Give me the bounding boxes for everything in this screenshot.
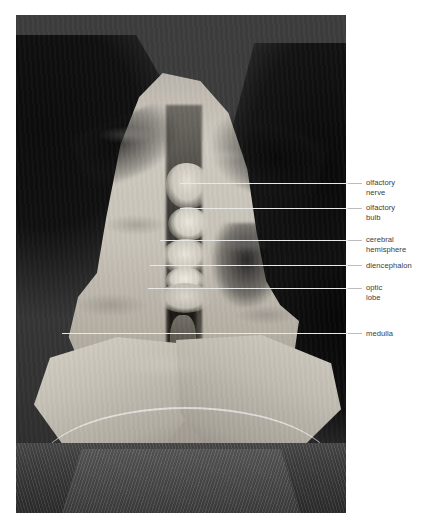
leader-tick-diencephalon [348, 265, 362, 266]
leader-tick-medulla [348, 333, 362, 334]
label-olfactory-bulb: olfactory bulb [366, 203, 395, 222]
leader-tick-olfactory-nerve [348, 183, 362, 184]
leader-line-cerebral-hemisphere [160, 240, 362, 241]
label-cerebral-hemisphere: cerebral hemisphere [366, 235, 406, 254]
label-medulla: medulla [366, 329, 393, 339]
label-olfactory-nerve: olfactory nerve [366, 178, 395, 197]
leader-line-medulla [62, 333, 362, 334]
dorsal-skin-band [16, 443, 346, 513]
leader-line-diencephalon [150, 265, 362, 266]
tissue-texture-overlay [16, 15, 346, 513]
leader-line-optic-lobe [148, 288, 362, 289]
leader-tick-cerebral-hemisphere [348, 240, 362, 241]
specimen-photograph [16, 15, 346, 513]
anatomy-figure: olfactory nerve olfactory bulb cerebral … [0, 0, 431, 526]
leader-tick-olfactory-bulb [348, 208, 362, 209]
leader-line-olfactory-nerve [180, 183, 362, 184]
label-diencephalon: diencephalon [366, 261, 412, 271]
leader-tick-optic-lobe [348, 288, 362, 289]
label-optic-lobe: optic lobe [366, 283, 382, 302]
leader-line-olfactory-bulb [180, 208, 362, 209]
